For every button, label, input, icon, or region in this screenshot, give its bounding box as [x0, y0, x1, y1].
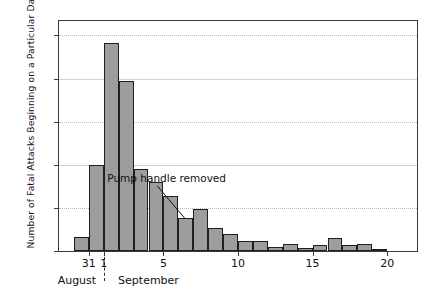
month-label-september: September — [118, 274, 179, 287]
annotation-leader-line — [59, 21, 419, 253]
month-label-august: August — [58, 274, 97, 287]
chart-figure: Number of Fatal Attacks Beginning on a P… — [0, 0, 435, 288]
plot-area: 3115101520AugustSeptember 0306090120150 … — [58, 20, 418, 252]
x-tick-label: 31 — [82, 257, 96, 270]
plot-inner: 3115101520AugustSeptember 0306090120150 … — [59, 21, 417, 251]
x-tick-label: 15 — [306, 257, 320, 270]
x-tick-label: 10 — [231, 257, 245, 270]
month-separator — [104, 257, 105, 281]
x-tick-label: 20 — [380, 257, 394, 270]
y-axis-title: Number of Fatal Attacks Beginning on a P… — [25, 0, 36, 249]
x-tick-label: 5 — [160, 257, 167, 270]
